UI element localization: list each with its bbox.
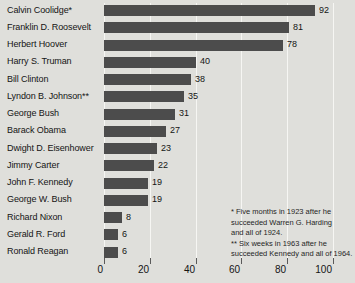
category-label: Bill Clinton [7,74,48,85]
footnote-line: succeeded Warren G. Harding [231,218,352,229]
category-label: Dwight D. Eisenhower [7,143,94,154]
value-label: 81 [293,22,303,33]
category-label: George Bush [7,108,59,119]
value-label: 31 [179,108,189,119]
bar [104,22,289,33]
bar [104,40,283,51]
category-label: Jimmy Carter [7,160,59,171]
value-label: 78 [287,39,297,50]
value-label: 19 [152,177,162,188]
bar [104,212,122,223]
axis-tick-label: 100 [302,264,332,275]
value-label: 8 [126,212,131,223]
footnote-line: succeeded Kennedy and all of 1964. [231,249,352,260]
bar [104,143,157,154]
value-label: 22 [158,160,168,171]
value-label: 35 [188,91,198,102]
category-label: Ronald Reagan [7,246,68,257]
category-label: Richard Nixon [7,212,62,223]
category-label: Gerald R. Ford [7,229,65,240]
bar [104,160,154,171]
category-label: Barack Obama [7,125,66,136]
axis-tick-20 [150,258,151,264]
footnote-line: * Five months in 1923 after he [231,207,352,218]
bar [104,229,118,240]
value-label: 6 [122,246,127,257]
bar [104,5,315,16]
bar [104,57,196,68]
category-label: Harry S. Truman [7,56,72,67]
axis-tick-label: 40 [165,264,195,275]
category-label: Calvin Coolidge* [7,5,72,16]
category-label: John F. Kennedy [7,177,73,188]
bar [104,74,191,85]
category-label: Lyndon B. Johnson** [7,91,89,102]
bar [104,91,184,102]
value-label: 40 [200,56,210,67]
value-label: 23 [161,143,171,154]
value-label: 38 [195,74,205,85]
bar [104,126,166,137]
footnote-line: and all of 1924. [231,228,352,239]
axis-tick-label: 20 [119,264,149,275]
category-label: George W. Bush [7,194,72,205]
presidents-bar-chart: Calvin Coolidge*92Franklin D. Roosevelt8… [0,0,355,283]
bar [104,247,118,258]
value-label: 92 [319,5,329,16]
axis-tick-label: 60 [210,264,240,275]
bar [104,109,175,120]
value-label: 19 [152,194,162,205]
value-label: 27 [170,125,180,136]
axis-tick-label: 0 [73,264,103,275]
footnote-line: ** Six weeks in 1963 after he [231,239,352,250]
category-label: Franklin D. Roosevelt [7,22,91,33]
value-label: 6 [122,229,127,240]
axis-tick-label: 80 [256,264,286,275]
footnote: * Five months in 1923 after hesucceeded … [231,207,352,260]
bar [104,178,148,189]
axis-tick-0 [104,258,105,264]
bar [104,195,148,206]
category-label: Herbert Hoover [7,39,67,50]
axis-tick-40 [196,258,197,264]
